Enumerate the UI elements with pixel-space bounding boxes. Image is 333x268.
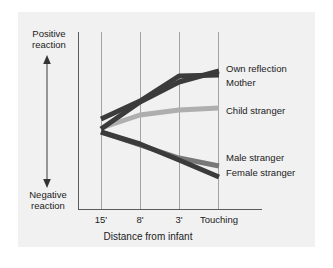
x-tick-label-3ft: 3' <box>164 214 194 225</box>
x-tick-label-touching: Touching <box>196 214 242 225</box>
x-tick-label-8ft: 8' <box>125 214 155 225</box>
y-axis-positive-line1: Positive <box>26 28 72 39</box>
series-label-child-stranger: Child stranger <box>226 105 285 116</box>
y-axis-negative-line1: Negative <box>24 189 72 200</box>
series-label-female-stranger: Female stranger <box>226 167 295 178</box>
y-axis-negative-label: Negative reaction <box>24 189 72 211</box>
series-female-stranger <box>101 132 219 177</box>
figure-container: Positive reaction Negative reaction Own … <box>0 0 333 268</box>
y-axis-positive-line2: reaction <box>26 39 72 50</box>
reaction-direction-arrow <box>43 55 51 188</box>
series-label-mother: Mother <box>226 77 256 88</box>
series-label-male-stranger: Male stranger <box>226 152 284 163</box>
y-axis-positive-label: Positive reaction <box>26 28 72 50</box>
x-tick-label-15ft: 15' <box>86 214 116 225</box>
series-label-own-reflection: Own reflection <box>226 63 287 74</box>
x-axis-title: Distance from infant <box>78 231 218 242</box>
y-axis-negative-line2: reaction <box>24 200 72 211</box>
